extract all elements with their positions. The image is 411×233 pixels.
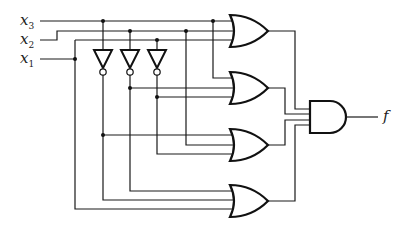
junction-dot [211,19,215,23]
or-gate-4 [230,185,268,217]
junction-dot [101,133,105,137]
junction-dot [128,86,132,90]
wire-or4-out [268,125,310,201]
junction-dot [184,29,188,33]
inverter-x1 [148,50,166,75]
input-label-x3: x3 [20,11,34,31]
or-gate-3 [230,129,268,161]
wire-x1-vertical [75,40,233,209]
inverter-x2 [121,50,139,75]
junction-dot [128,29,132,33]
and-gate [310,101,346,133]
wire-or2-out [268,88,310,114]
input-label-x2: x2 [20,30,34,50]
junction-dot [101,19,105,23]
junction-dot [155,38,159,42]
wire-x3-tap [213,21,233,78]
junction-dot [155,95,159,99]
wire-not-x1 [157,75,233,154]
wire-x2-bus [40,31,234,40]
input-label-x1: x1 [20,49,34,69]
wire-or1-out [268,31,310,109]
wire-not-x3 [103,75,233,200]
wire-or3-out [268,120,310,145]
junction-dot [73,57,77,61]
or-gate-1 [230,15,268,47]
logic-circuit-diagram: x3 x2 x1 f [0,0,411,233]
or-gate-2 [230,72,268,104]
wire-not-x2 [130,75,234,191]
output-label-f: f [382,107,391,125]
inverter-x3 [94,50,112,75]
